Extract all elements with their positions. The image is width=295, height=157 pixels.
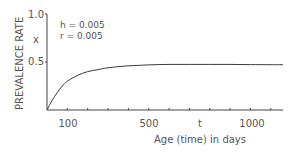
annotation-r: r = 0.005 — [60, 31, 103, 41]
chart: PREVALENCE RATE x 0.5 1.0 h = 0.005 r = … — [0, 0, 295, 157]
series-prevalence-line — [47, 64, 283, 110]
x-axis-label: Age (time) in days — [154, 134, 246, 145]
ytick-label-0.5: 0.5 — [28, 56, 44, 67]
y-axis-symbol: x — [33, 34, 39, 45]
xtick-label-500: 500 — [139, 118, 158, 129]
ytick-label-1.0: 1.0 — [28, 9, 44, 20]
annotation-h: h = 0.005 — [60, 20, 105, 30]
y-axis-label: PREVALENCE RATE — [14, 17, 25, 110]
x-axis-symbol: t — [198, 118, 202, 129]
xtick-label-1000: 1000 — [239, 118, 264, 129]
xtick-label-100: 100 — [58, 118, 77, 129]
